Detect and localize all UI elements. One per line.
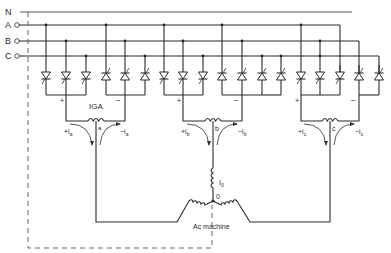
thyristor-icon <box>316 65 325 95</box>
thyristor-icon <box>102 65 111 95</box>
thyristor-icon <box>141 65 150 95</box>
thyristor-icon <box>238 65 247 95</box>
line-label-c: C <box>5 51 12 61</box>
converter-group-a: + − IGA a +ia −ia <box>42 24 150 190</box>
svg-text:−: − <box>116 96 121 105</box>
winding-icon <box>96 190 213 222</box>
thyristor-icon <box>62 65 71 95</box>
svg-text:+: + <box>177 97 181 104</box>
converter-group-c: + − c +ic −ic <box>262 24 384 222</box>
winding-icon <box>213 200 330 222</box>
intergroup-reactor-icon <box>322 119 338 122</box>
supply-lines: N A B C <box>5 7 379 77</box>
neutral-point-icon <box>211 199 214 202</box>
terminal-b-icon <box>15 39 20 44</box>
svg-text:+ib: +ib <box>181 128 190 137</box>
winding-icon <box>211 168 213 201</box>
svg-text:+: + <box>295 97 299 104</box>
intergroup-reactor-icon <box>88 119 104 122</box>
thyristor-icon <box>121 65 130 95</box>
line-label-a: A <box>5 20 11 30</box>
reactor-label-iga: IGA <box>89 102 103 111</box>
thyristor-icon <box>179 65 188 95</box>
svg-text:+ic: +ic <box>298 128 307 137</box>
svg-text:−ib: −ib <box>238 128 247 137</box>
thyristor-icon <box>277 65 286 95</box>
terminal-c-icon <box>15 54 20 59</box>
cycloconverter-diagram: N A B C <box>0 0 391 253</box>
neutral-label: 0 <box>216 193 220 200</box>
svg-text:c: c <box>332 125 336 132</box>
thyristor-icon <box>258 65 267 95</box>
svg-text:−ic: −ic <box>355 128 364 137</box>
ac-machine: 0 I0 Ac machine <box>96 168 330 230</box>
line-label-n: N <box>5 7 12 17</box>
svg-text:−: − <box>351 96 356 105</box>
intergroup-reactor-icon <box>205 119 221 122</box>
machine-label: Ac machine <box>193 223 230 230</box>
svg-text:+ia: +ia <box>64 128 73 137</box>
thyristor-icon <box>42 65 51 95</box>
thyristor-icon <box>199 65 208 95</box>
converter-group-b: + − b +ib −ib <box>144 24 267 168</box>
svg-text:b: b <box>215 125 219 132</box>
thyristor-icon <box>375 65 384 95</box>
thyristor-icon <box>160 65 169 95</box>
line-label-b: B <box>5 36 11 46</box>
svg-text:a: a <box>98 125 102 131</box>
svg-text:−: − <box>234 96 239 105</box>
thyristor-icon <box>82 65 91 95</box>
thyristor-icon <box>336 65 345 95</box>
thyristor-icon <box>297 65 306 95</box>
thyristor-icon <box>355 65 364 95</box>
svg-text:−ia: −ia <box>120 128 129 137</box>
zero-current-label: I0 <box>219 179 224 188</box>
thyristor-icon <box>218 65 227 95</box>
terminal-a-icon <box>15 23 20 28</box>
svg-text:+: + <box>60 97 64 104</box>
